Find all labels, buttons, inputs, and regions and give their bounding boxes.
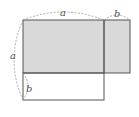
shaded-region-left [23, 20, 104, 73]
shaded-region-right [104, 20, 130, 73]
bottom-rectangle-outline [23, 73, 104, 100]
label-left-a: a [10, 50, 16, 61]
label-top-a: a [60, 7, 66, 18]
area-diagram: a b a b [0, 0, 139, 117]
label-inner-b: b [26, 83, 32, 94]
label-top-b: b [114, 8, 120, 19]
